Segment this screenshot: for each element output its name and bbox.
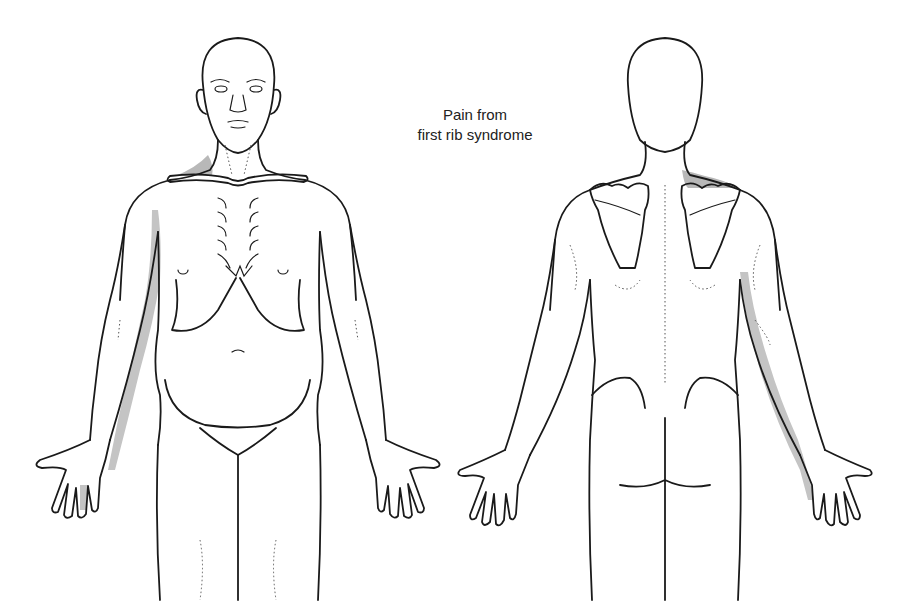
back-left-hand <box>458 450 530 525</box>
back-view-figure <box>458 38 871 600</box>
back-right-scapula <box>681 183 740 268</box>
body-diagram <box>0 0 910 612</box>
front-view-figure <box>36 38 439 600</box>
front-right-hand <box>36 440 110 518</box>
front-pain-shading <box>80 155 213 510</box>
back-head <box>628 38 702 152</box>
front-left-hand <box>366 440 440 518</box>
front-ribs <box>218 198 258 276</box>
front-head <box>202 38 274 153</box>
back-left-scapula <box>590 183 649 268</box>
